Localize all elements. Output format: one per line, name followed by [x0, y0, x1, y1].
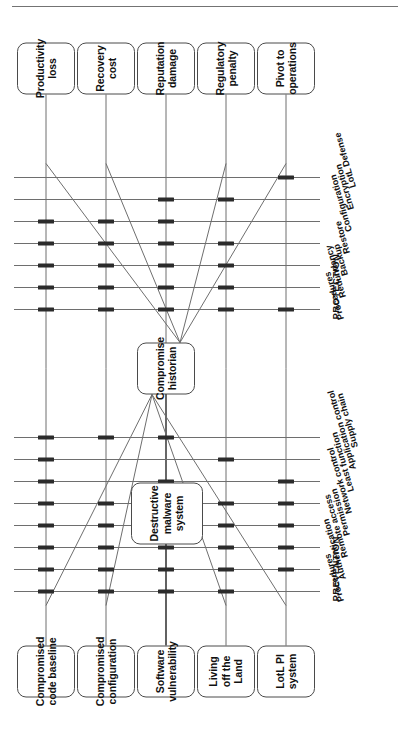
barrier-tick[interactable] — [158, 263, 174, 267]
barrier-tick[interactable] — [218, 263, 234, 267]
consequence-label: Pivot to operations — [274, 42, 299, 95]
threat-box-lotl-pi-system[interactable]: LotL PI system — [257, 645, 315, 697]
barrier-tick[interactable] — [218, 285, 234, 289]
threat-box-compromised-code-baseline[interactable]: Compromised code baseline — [17, 645, 75, 697]
consequence-box-productivity-loss[interactable]: Productivity loss — [17, 42, 75, 94]
secondary-event-label: Destructive malware system — [148, 485, 185, 541]
barrier-tick[interactable] — [98, 241, 114, 245]
barrier-tick[interactable] — [98, 545, 114, 549]
barrier-tick[interactable] — [98, 523, 114, 527]
threat-label: Compromised configuration — [94, 636, 119, 706]
barrier-tick[interactable] — [158, 545, 174, 550]
barrier-tick[interactable] — [38, 241, 54, 245]
threat-box-living-off-the-land[interactable]: Living off the Land — [197, 645, 255, 697]
barrier-tick[interactable] — [38, 307, 54, 311]
barrier-tick[interactable] — [38, 545, 54, 549]
barrier-tick[interactable] — [38, 479, 54, 483]
barrier-tick[interactable] — [38, 435, 54, 439]
barrier-tick[interactable] — [218, 501, 234, 505]
threat-label: Compromised code baseline — [34, 636, 59, 706]
barrier-tick[interactable] — [158, 589, 174, 594]
barrier-tick[interactable] — [278, 567, 294, 571]
bowtie-diagram-stage: PREVENTION PROTECTION Compromised code b… — [0, 0, 410, 739]
barrier-tick[interactable] — [218, 589, 234, 593]
barrier-tick[interactable] — [278, 545, 294, 549]
threat-label: LotL PI system — [274, 649, 299, 693]
central-event-label: Compromise historian — [154, 336, 179, 399]
barrier-tick[interactable] — [218, 567, 234, 571]
barrier-tick[interactable] — [218, 457, 234, 461]
barrier-tick[interactable] — [158, 285, 174, 289]
consequence-label: Productivity loss — [34, 38, 59, 97]
barrier-tick[interactable] — [98, 435, 114, 439]
barrier-tick[interactable] — [38, 263, 54, 267]
threat-box-software-vulnerability[interactable]: Software vulnerability — [137, 645, 195, 697]
barrier-tick[interactable] — [38, 501, 54, 505]
barrier-tick[interactable] — [158, 567, 174, 572]
barrier-tick[interactable] — [98, 501, 114, 505]
barrier-tick[interactable] — [98, 219, 114, 223]
consequence-box-recovery-cost[interactable]: Recovery cost — [77, 42, 135, 94]
central-event-box-compromise-historian[interactable]: Compromise historian — [137, 342, 195, 394]
barrier-tick[interactable] — [38, 285, 54, 289]
barrier-tick[interactable] — [38, 589, 54, 593]
barrier-tick[interactable] — [158, 219, 174, 223]
threat-label: Software vulnerability — [154, 641, 179, 702]
barrier-tick[interactable] — [158, 197, 174, 201]
bowtie-canvas: PREVENTION PROTECTION Compromised code b… — [0, 0, 410, 739]
barrier-tick[interactable] — [218, 241, 234, 245]
barrier-tick[interactable] — [278, 523, 294, 527]
secondary-event-box-destructive-malware-system[interactable]: Destructive malware system — [131, 482, 203, 544]
barrier-tick[interactable] — [278, 175, 294, 179]
barrier-tick[interactable] — [218, 523, 234, 527]
barrier-tick[interactable] — [98, 307, 114, 311]
consequence-label: Reputation damage — [154, 41, 179, 95]
consequence-label: Recovery cost — [94, 45, 119, 91]
barrier-tick[interactable] — [98, 263, 114, 267]
barrier-tick[interactable] — [278, 479, 294, 483]
barrier-tick[interactable] — [38, 567, 54, 571]
barrier-tick[interactable] — [278, 307, 294, 311]
barrier-tick[interactable] — [98, 567, 114, 571]
barrier-tick[interactable] — [158, 307, 174, 311]
barrier-tick[interactable] — [158, 435, 174, 440]
consequence-box-reputation-damage[interactable]: Reputation damage — [137, 42, 195, 94]
consequence-box-regulatory-penalty[interactable]: Regulatory penalty — [197, 42, 255, 94]
consequence-label: Regulatory penalty — [214, 41, 239, 95]
connector-layer — [0, 0, 410, 739]
barrier-tick[interactable] — [218, 307, 234, 311]
barrier-tick[interactable] — [218, 197, 234, 201]
barrier-tick[interactable] — [278, 501, 294, 505]
barrier-tick[interactable] — [158, 241, 174, 245]
consequence-box-pivot-to-operations[interactable]: Pivot to operations — [257, 42, 315, 94]
barrier-tick[interactable] — [98, 285, 114, 289]
barrier-tick[interactable] — [38, 219, 54, 223]
barrier-tick[interactable] — [98, 589, 114, 593]
threat-label: Living off the Land — [207, 649, 244, 693]
barrier-tick[interactable] — [38, 523, 54, 527]
barrier-tick[interactable] — [38, 457, 54, 461]
barrier-tick[interactable] — [218, 545, 234, 549]
threat-box-compromised-configuration[interactable]: Compromised configuration — [77, 645, 135, 697]
